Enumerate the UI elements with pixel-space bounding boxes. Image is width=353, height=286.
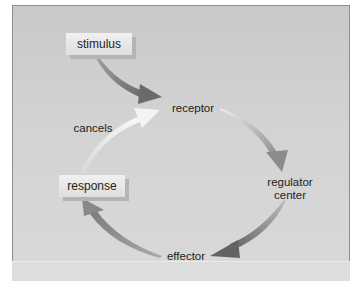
arrows-layer bbox=[0, 0, 353, 286]
regulator-line2: center bbox=[260, 189, 320, 202]
response-label: response bbox=[67, 179, 116, 193]
regulator-line1: regulator bbox=[260, 176, 320, 189]
regulator-center-label: regulator center bbox=[260, 176, 320, 202]
arrow-effector-response bbox=[82, 198, 162, 258]
receptor-label: receptor bbox=[166, 102, 220, 115]
arrow-response-receptor bbox=[80, 108, 160, 174]
arrow-stimulus-receptor bbox=[96, 56, 162, 104]
arrow-regulator-effector bbox=[210, 200, 286, 258]
cancels-label: cancels bbox=[68, 122, 118, 135]
stimulus-box: stimulus bbox=[66, 33, 132, 55]
stimulus-label: stimulus bbox=[77, 37, 121, 51]
effector-label: effector bbox=[162, 250, 210, 263]
response-box: response bbox=[59, 175, 125, 197]
arrow-receptor-regulator bbox=[220, 108, 288, 172]
